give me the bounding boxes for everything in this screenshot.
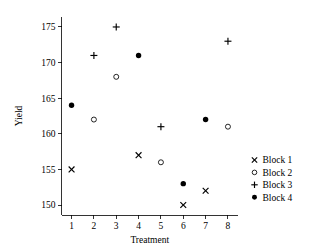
series-block-2: [91, 74, 230, 164]
y-tick-label-175: 175: [41, 22, 56, 32]
x-tick-label-3: 3: [114, 221, 119, 231]
legend-label-block-4: Block 4: [263, 193, 293, 203]
series-block-4: [69, 53, 208, 187]
legend-marker-block-4: [252, 195, 257, 200]
data-point-block-3-t5: [157, 123, 164, 130]
data-point-block-4-t6: [181, 181, 186, 186]
data-point-block-2-t2: [91, 117, 96, 122]
legend-marker-block-3: [251, 182, 257, 188]
data-point-block-4-t4: [136, 53, 141, 58]
x-tick-label-4: 4: [136, 221, 141, 231]
axes-group: 15015516016517017512345678TreatmentYield: [14, 17, 238, 245]
x-tick-label-8: 8: [226, 221, 231, 231]
y-axis-title: Yield: [14, 105, 24, 126]
data-point-block-1-t4: [136, 152, 142, 158]
y-tick-label-160: 160: [41, 129, 56, 139]
y-tick-label-155: 155: [41, 165, 56, 175]
x-axis-title: Treatment: [130, 235, 169, 245]
series-block-1: [69, 152, 209, 208]
data-point-block-1-t6: [180, 202, 186, 208]
legend-item-block-4: Block 4: [252, 193, 293, 203]
legend-marker-block-1: [252, 157, 257, 162]
y-tick-label-150: 150: [41, 200, 56, 210]
data-point-block-2-t5: [158, 160, 163, 165]
plot-canvas: 15015516016517017512345678TreatmentYield…: [0, 0, 312, 251]
legend-marker-block-2: [252, 170, 257, 175]
y-tick-label-170: 170: [41, 58, 56, 68]
chart-legend: Block 1Block 2Block 3Block 4: [251, 155, 292, 202]
x-tick-label-7: 7: [203, 221, 208, 231]
data-point-block-3-t8: [224, 38, 231, 45]
data-point-block-3-t2: [90, 52, 97, 59]
series-block-3: [90, 23, 231, 130]
scatter-plot-figure: 15015516016517017512345678TreatmentYield…: [0, 0, 312, 251]
y-tick-label-165: 165: [41, 94, 56, 104]
data-point-block-4-t7: [203, 117, 208, 122]
x-tick-label-2: 2: [92, 221, 97, 231]
legend-label-block-2: Block 2: [263, 168, 293, 178]
legend-item-block-2: Block 2: [252, 168, 292, 178]
x-tick-label-5: 5: [159, 221, 164, 231]
data-points-group: [69, 23, 232, 207]
data-point-block-2-t3: [114, 74, 119, 79]
x-tick-label-6: 6: [181, 221, 186, 231]
data-point-block-1-t1: [69, 167, 75, 173]
x-tick-label-1: 1: [69, 221, 74, 231]
data-point-block-2-t8: [225, 124, 230, 129]
legend-item-block-1: Block 1: [252, 155, 293, 165]
legend-label-block-1: Block 1: [263, 155, 293, 165]
data-point-block-3-t3: [113, 23, 120, 30]
legend-label-block-3: Block 3: [263, 180, 293, 190]
data-point-block-1-t7: [203, 188, 209, 194]
legend-item-block-3: Block 3: [251, 180, 292, 190]
data-point-block-4-t1: [69, 103, 74, 108]
